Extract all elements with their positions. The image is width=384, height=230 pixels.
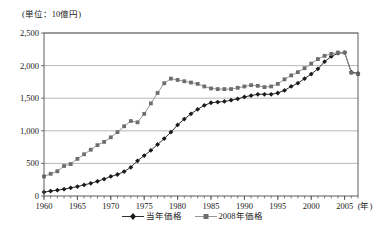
legend-marker-square-icon [195,212,217,221]
legend-item-constant[interactable]: 2008年価格 [195,212,263,221]
svg-text:2,500: 2,500 [20,28,39,38]
chart-plot-area: 05001,0001,5002,0002,500 196019651970197… [0,0,384,230]
svg-text:1980: 1980 [169,201,186,211]
svg-text:2000: 2000 [303,201,320,211]
chart-figure: (単位：10億円) 05001,0001,5002,0002,500 19601… [0,0,384,230]
svg-text:2005: 2005 [336,201,353,211]
plot-frame [44,33,358,196]
svg-text:1990: 1990 [236,201,253,211]
svg-text:0: 0 [35,191,39,201]
gridlines [44,33,358,163]
x-axis-unit-label: (年) [358,201,373,211]
svg-text:1970: 1970 [102,201,119,211]
x-axis-ticks: 1960196519701975198019851990199520002005 [36,196,354,211]
svg-text:1985: 1985 [203,201,220,211]
chart-legend: 当年価格 2008年価格 [0,212,384,221]
svg-text:1,500: 1,500 [20,93,39,103]
legend-label-current: 当年価格 [146,212,182,221]
svg-text:1965: 1965 [69,201,86,211]
svg-text:1,000: 1,000 [20,126,39,136]
legend-label-constant: 2008年価格 [219,212,263,221]
svg-text:1995: 1995 [269,201,286,211]
legend-marker-diamond-icon [122,212,144,221]
y-axis-ticks: 05001,0001,5002,0002,500 [20,28,44,201]
data-series [42,50,361,194]
svg-text:2,000: 2,000 [20,61,39,71]
svg-text:500: 500 [26,158,39,168]
legend-item-current[interactable]: 当年価格 [122,212,182,221]
svg-text:1960: 1960 [36,201,53,211]
svg-text:1975: 1975 [136,201,153,211]
